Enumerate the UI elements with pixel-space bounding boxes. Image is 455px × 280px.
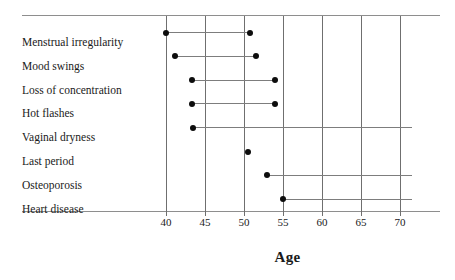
category-label-3: Loss of concentration (22, 84, 122, 97)
data-point-end-3 (272, 77, 278, 83)
x-tick-label-65: 65 (347, 216, 375, 229)
data-point-start-5 (190, 125, 196, 131)
data-point-end-1 (247, 30, 253, 36)
category-label-6: Last period (22, 155, 74, 168)
dot-plot-chart: 40455055606570 Menstrual irregularityMoo… (0, 0, 455, 280)
x-tick-label-50: 50 (230, 216, 258, 229)
data-point-start-8 (280, 196, 286, 202)
gridline-50 (244, 16, 245, 212)
gridline-40 (166, 16, 167, 212)
gridline-60 (322, 16, 323, 212)
category-label-8: Heart disease (22, 203, 84, 216)
data-point-start-6 (245, 149, 251, 155)
category-label-7: Osteoporosis (22, 179, 82, 192)
x-tick-label-40: 40 (152, 216, 180, 229)
data-point-end-4 (272, 101, 278, 107)
data-point-start-4 (189, 101, 195, 107)
data-point-start-3 (189, 77, 195, 83)
gridline-70 (400, 16, 401, 212)
category-label-2: Mood swings (22, 60, 84, 73)
gridline-55 (283, 16, 284, 212)
x-axis-title: Age (0, 249, 455, 266)
data-point-start-1 (163, 30, 169, 36)
data-point-end-2 (253, 53, 259, 59)
gridline-45 (205, 16, 206, 212)
plot-bottom-border (22, 211, 440, 212)
x-tick-label-55: 55 (269, 216, 297, 229)
range-line-3 (192, 80, 275, 81)
range-line-8 (283, 199, 412, 200)
category-label-4: Hot flashes (22, 107, 74, 120)
range-line-2 (175, 56, 256, 57)
plot-top-border (22, 15, 440, 16)
category-label-1: Menstrual irregularity (22, 36, 123, 49)
range-line-7 (267, 175, 412, 176)
category-label-5: Vaginal dryness (22, 131, 95, 144)
x-tick-label-60: 60 (308, 216, 336, 229)
data-point-start-7 (264, 172, 270, 178)
range-line-5 (193, 127, 412, 128)
data-point-start-2 (172, 53, 178, 59)
range-line-1 (166, 32, 250, 33)
gridline-65 (361, 16, 362, 212)
x-tick-label-70: 70 (386, 216, 414, 229)
range-line-4 (192, 103, 275, 104)
x-tick-label-45: 45 (191, 216, 219, 229)
